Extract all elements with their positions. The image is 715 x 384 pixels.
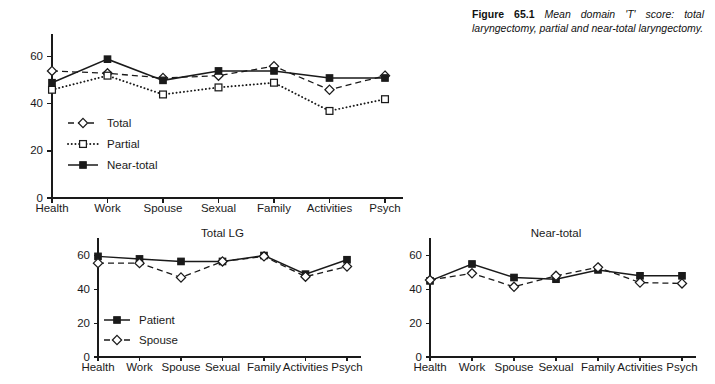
chart-title: Near-total	[531, 227, 582, 239]
legend-label: Near-total	[107, 159, 158, 171]
legend-swatch-marker	[112, 335, 121, 344]
legend-label: Partial	[107, 138, 140, 150]
chart-total-lg: Total LG0204060HealthWorkSpouseSexualFam…	[60, 222, 370, 382]
data-point-partial	[326, 108, 333, 115]
x-tick-label: Health	[35, 202, 68, 214]
y-tick-label: 40	[30, 97, 43, 109]
data-point-partial	[271, 79, 278, 86]
figure-caption-label: Figure 65.1	[472, 8, 535, 20]
legend-swatch-marker	[80, 141, 87, 148]
x-tick-label: Psych	[666, 361, 697, 373]
x-tick-label: Spouse	[494, 361, 533, 373]
y-tick-label: 20	[77, 317, 90, 329]
data-point-patient	[469, 261, 475, 267]
data-point-patient	[178, 258, 184, 264]
data-point-near-total	[271, 68, 277, 74]
x-tick-label: Work	[126, 361, 153, 373]
data-point-spouse	[677, 279, 686, 288]
x-tick-label: Activities	[307, 202, 353, 214]
data-point-near-total	[160, 77, 166, 83]
data-point-spouse	[467, 269, 476, 278]
chart-near-total: Near-total0204060HealthWorkSpouseSexualF…	[392, 222, 707, 382]
legend-swatch-marker	[78, 118, 87, 127]
data-point-spouse	[509, 282, 518, 291]
data-point-partial	[160, 91, 167, 98]
data-point-partial	[104, 72, 111, 79]
y-tick-label: 20	[409, 317, 422, 329]
x-tick-label: Activities	[617, 361, 663, 373]
data-point-partial	[215, 84, 222, 91]
data-point-near-total	[104, 56, 110, 62]
x-tick-label: Family	[257, 202, 291, 214]
chart-mean-domain-t-score: 0204060HealthWorkSpouseSexualFamilyActiv…	[0, 10, 470, 210]
x-tick-label: Psych	[369, 202, 400, 214]
y-tick-label: 60	[409, 249, 422, 261]
data-point-near-total	[382, 75, 388, 81]
data-point-near-total	[215, 68, 221, 74]
legend-swatch-marker	[114, 317, 120, 323]
y-tick-label: 20	[30, 144, 43, 156]
x-tick-label: Family	[247, 361, 281, 373]
data-point-partial	[382, 96, 389, 103]
data-point-near-total	[326, 75, 332, 81]
data-point-patient	[511, 274, 517, 280]
data-point-near-total	[49, 80, 55, 86]
chart-main-svg: 0204060HealthWorkSpouseSexualFamilyActiv…	[0, 10, 470, 210]
legend-swatch-marker	[80, 162, 86, 168]
y-tick-label: 60	[30, 50, 43, 62]
data-point-total	[47, 66, 56, 75]
chart-title: Total LG	[201, 227, 244, 239]
legend-label: Patient	[139, 314, 176, 326]
x-tick-label: Family	[581, 361, 615, 373]
y-tick-label: 40	[77, 283, 90, 295]
x-tick-label: Psych	[331, 361, 362, 373]
x-tick-label: Sexual	[201, 202, 236, 214]
x-tick-label: Health	[413, 361, 446, 373]
x-tick-label: Work	[459, 361, 486, 373]
legend-label: Total	[107, 117, 131, 129]
chart-total-lg-svg: Total LG0204060HealthWorkSpouseSexualFam…	[60, 222, 370, 382]
chart-near-total-svg: Near-total0204060HealthWorkSpouseSexualF…	[392, 222, 707, 382]
y-tick-label: 40	[409, 283, 422, 295]
x-tick-label: Spouse	[161, 361, 200, 373]
x-tick-label: Spouse	[143, 202, 182, 214]
data-point-total	[325, 85, 334, 94]
x-tick-label: Sexual	[205, 361, 240, 373]
legend-label: Spouse	[139, 334, 178, 346]
data-point-partial	[49, 86, 56, 93]
figure-caption: Figure 65.1 Mean domain 'T' score: total…	[472, 8, 704, 35]
x-tick-label: Sexual	[538, 361, 573, 373]
x-tick-label: Health	[81, 361, 114, 373]
x-tick-label: Activities	[283, 361, 329, 373]
x-tick-label: Work	[94, 202, 121, 214]
y-tick-label: 60	[77, 249, 90, 261]
data-point-spouse	[176, 273, 185, 282]
